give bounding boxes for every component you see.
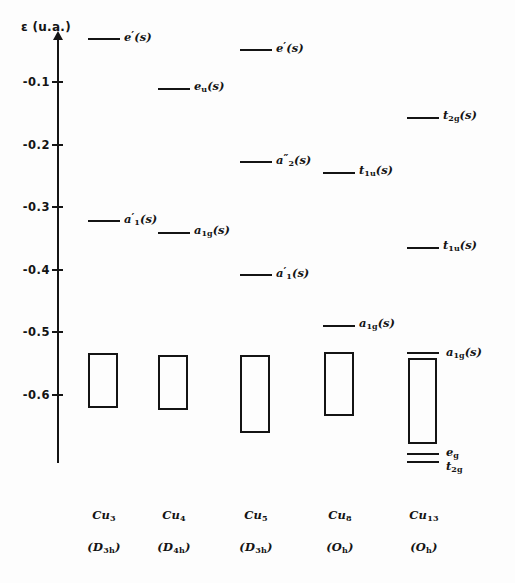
level-label-cu3-a1-prime: a′1(s)	[124, 211, 157, 227]
y-axis-tick-2	[52, 144, 63, 146]
column-caption-cu13: Cu13 (Oh)	[396, 508, 452, 555]
level-line-cu13-t2g-bottom	[407, 461, 439, 463]
level-line-cu4-a1g	[158, 232, 190, 234]
energy-level-diagram-figure: ε (u.a.) -0.1 -0.2 -0.3 -0.4 -0.5 -0.6 e…	[0, 0, 515, 583]
y-axis-title: ε (u.a.)	[21, 20, 71, 34]
level-label-cu13-t2g: t2g(s)	[443, 108, 477, 123]
level-line-cu5-a1-prime	[240, 274, 272, 276]
level-line-cu5-a2-dprime	[240, 161, 272, 163]
y-axis-tick-label-5: -0.5	[18, 325, 50, 339]
caption-formula-cu3: Cu3	[78, 508, 130, 523]
level-line-cu13-t1u	[407, 247, 439, 249]
y-axis-tick-4	[52, 269, 63, 271]
caption-formula-cu13: Cu13	[396, 508, 452, 523]
y-axis-tick-label-3: -0.3	[18, 200, 50, 214]
column-caption-cu3: Cu3 (D3h)	[78, 508, 130, 555]
column-caption-cu4: Cu4 (D4h)	[148, 508, 200, 555]
level-label-cu5-a2-dprime: a″2(s)	[276, 152, 311, 168]
level-label-cu5-e-prime: e′(s)	[276, 40, 304, 55]
level-label-cu4-a1g: a1g(s)	[194, 223, 230, 238]
level-line-cu13-t2g	[407, 117, 439, 119]
caption-formula-cu5: Cu5	[230, 508, 282, 523]
y-axis-tick-label-4: -0.4	[18, 263, 50, 277]
level-label-cu5-a1-prime: a′1(s)	[276, 265, 309, 281]
level-line-cu3-e-prime	[88, 38, 120, 40]
level-line-cu8-a1g	[323, 325, 355, 327]
level-line-cu4-eu	[158, 88, 190, 90]
y-axis-line	[57, 39, 59, 463]
level-line-cu13-eg	[407, 453, 439, 455]
y-axis-tick-6	[52, 394, 63, 396]
level-line-cu3-a1-prime	[88, 220, 120, 222]
caption-symmetry-cu5: (D3h)	[230, 540, 282, 555]
band-box-cu4	[158, 355, 188, 410]
caption-symmetry-cu3: (D3h)	[78, 540, 130, 555]
band-box-cu13	[408, 358, 437, 444]
y-axis-tick-label-1: -0.1	[18, 75, 50, 89]
caption-formula-cu4: Cu4	[148, 508, 200, 523]
y-axis-tick-1	[52, 81, 63, 83]
level-label-cu13-a1g: a1g(s)	[446, 345, 482, 360]
level-label-cu13-t2g-bottom: t2g	[446, 459, 462, 474]
y-axis-tick-3	[52, 206, 63, 208]
caption-symmetry-cu13: (Oh)	[396, 540, 452, 555]
y-axis-tick-label-6: -0.6	[18, 388, 50, 402]
level-label-cu8-a1g: a1g(s)	[359, 316, 395, 331]
level-label-cu8-t1u: t1u(s)	[359, 163, 393, 178]
y-axis-tick-label-2: -0.2	[18, 138, 50, 152]
band-box-cu8	[324, 352, 354, 416]
level-line-cu13-a1g	[407, 352, 439, 354]
level-label-cu3-e-prime: e′(s)	[124, 29, 152, 44]
column-caption-cu5: Cu5 (D3h)	[230, 508, 282, 555]
caption-formula-cu8: Cu8	[314, 508, 366, 523]
column-caption-cu8: Cu8 (Oh)	[314, 508, 366, 555]
caption-symmetry-cu4: (D4h)	[148, 540, 200, 555]
level-line-cu8-t1u	[323, 172, 355, 174]
band-box-cu3	[88, 353, 118, 408]
level-label-cu4-eu: eu(s)	[194, 79, 225, 94]
band-box-cu5	[240, 355, 270, 433]
level-label-cu13-eg: eg	[446, 445, 459, 460]
level-label-cu13-t1u: t1u(s)	[443, 238, 477, 253]
caption-symmetry-cu8: (Oh)	[314, 540, 366, 555]
y-axis-tick-5	[52, 331, 63, 333]
level-line-cu5-e-prime	[240, 49, 272, 51]
